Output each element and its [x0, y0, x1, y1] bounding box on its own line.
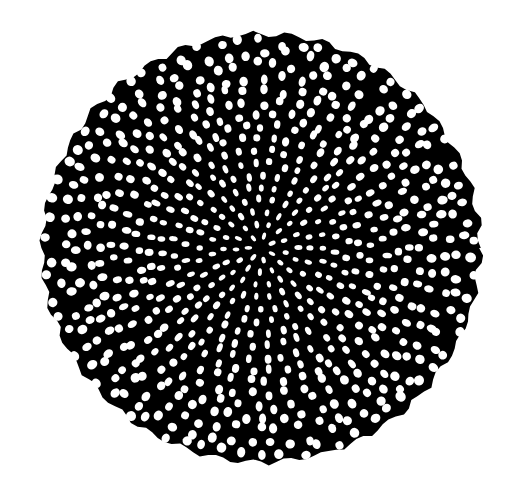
cell	[96, 243, 105, 251]
cell	[258, 306, 264, 313]
cell	[259, 185, 264, 192]
cell	[257, 124, 263, 131]
cell	[196, 245, 202, 250]
cell	[320, 246, 327, 251]
cell	[258, 422, 267, 431]
cell	[258, 450, 266, 460]
cell	[405, 244, 414, 251]
cell	[415, 244, 423, 251]
cell	[306, 245, 313, 250]
radial-cell-pattern-artwork	[0, 0, 512, 486]
